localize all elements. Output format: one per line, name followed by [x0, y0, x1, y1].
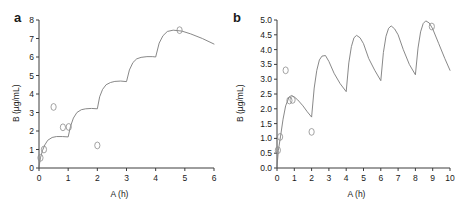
y-tick-label: 8 [29, 15, 34, 25]
x-tick-label: 10 [445, 173, 455, 183]
figure-container: a 0123456012345678 A (h) B (µg/mL) b 012… [0, 0, 461, 203]
data-marker [290, 97, 295, 104]
y-tick-label: 3.5 [260, 59, 272, 69]
x-tick-label: 7 [396, 173, 401, 183]
panel-a-x-axis-label: A (h) [111, 190, 129, 199]
x-tick-label: 1 [66, 173, 71, 183]
y-tick-label: 2.0 [260, 104, 272, 114]
panel-a: a 0123456012345678 A (h) B (µg/mL) [0, 0, 231, 203]
x-tick-label: 0 [37, 173, 42, 183]
x-tick-label: 2 [309, 173, 314, 183]
data-marker [51, 104, 56, 111]
x-tick-label: 6 [378, 173, 383, 183]
y-tick-label: 0.5 [260, 148, 272, 158]
panel-a-y-axis-label: B (µg/mL) [12, 85, 21, 123]
x-tick-label: 3 [124, 173, 129, 183]
y-tick-label: 6 [29, 52, 34, 62]
y-tick-label: 3 [29, 108, 34, 118]
x-tick-label: 9 [430, 173, 435, 183]
x-tick-label: 5 [182, 173, 187, 183]
data-marker [95, 142, 100, 149]
x-tick-label: 8 [413, 173, 418, 183]
y-tick-label: 4.5 [260, 30, 272, 40]
y-tick-label: 1.0 [260, 133, 272, 143]
x-tick-label: 0 [275, 173, 280, 183]
panel-b-plot: 0123456789100.00.51.01.52.02.53.03.54.04… [230, 0, 461, 203]
x-tick-label: 4 [153, 173, 158, 183]
y-tick-label: 0.0 [260, 163, 272, 173]
data-curve [277, 21, 450, 167]
x-tick-label: 1 [292, 173, 297, 183]
y-tick-label: 1 [29, 145, 34, 155]
y-tick-label: 2.5 [260, 89, 272, 99]
panel-b-x-axis-label: A (h) [348, 190, 366, 199]
y-tick-label: 5.0 [260, 15, 272, 25]
panel-b-y-axis-label: B (µg/mL) [236, 85, 245, 123]
y-tick-label: 0 [29, 163, 34, 173]
y-tick-label: 3.0 [260, 74, 272, 84]
x-tick-label: 2 [95, 173, 100, 183]
x-tick-label: 6 [212, 173, 217, 183]
data-marker [60, 124, 65, 131]
data-marker [309, 128, 314, 135]
y-tick-label: 1.5 [260, 119, 272, 129]
x-tick-label: 5 [361, 173, 366, 183]
y-tick-label: 7 [29, 34, 34, 44]
y-tick-label: 4 [29, 89, 34, 99]
y-tick-label: 2 [29, 126, 34, 136]
x-tick-label: 3 [327, 173, 332, 183]
panel-b: b 0123456789100.00.51.01.52.02.53.03.54.… [230, 0, 461, 203]
data-curve [39, 30, 214, 167]
x-tick-label: 4 [344, 173, 349, 183]
y-tick-label: 4.0 [260, 45, 272, 55]
y-tick-label: 5 [29, 71, 34, 81]
data-marker [177, 27, 182, 34]
data-marker [283, 67, 288, 74]
panel-a-plot: 0123456012345678 [0, 0, 231, 203]
